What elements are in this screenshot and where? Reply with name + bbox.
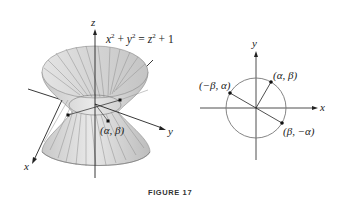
point-marker: [119, 99, 122, 102]
z-axis-arrow-icon: [93, 29, 97, 35]
y-axis-label: y: [168, 125, 173, 137]
z-axis-label: z: [91, 16, 95, 28]
point-alpha-beta-label: (α, β): [100, 124, 124, 136]
point-marker: [67, 114, 70, 117]
hyperboloid-equation: x2 + y2 = z2 + 1: [106, 32, 174, 45]
label-alpha-beta: (α, β): [273, 69, 297, 81]
point-alpha-beta-marker: [107, 120, 110, 123]
x-axis-arrow-icon: [32, 157, 37, 164]
right-y-axis-label: y: [252, 37, 257, 49]
figure-caption: FIGURE 17: [148, 188, 192, 197]
point-neg-beta-alpha: [228, 91, 232, 95]
figure-canvas: [0, 0, 338, 204]
right-y-axis-arrow-icon: [254, 51, 258, 57]
radius-alpha-beta: [256, 82, 271, 108]
right-x-axis-arrow-icon: [312, 106, 318, 110]
label-beta-neg-alpha: (β, −α): [283, 125, 315, 137]
hyperboloid-plot: [28, 29, 166, 178]
circle-plot: [200, 51, 318, 160]
y-axis-arrow-icon: [159, 126, 166, 130]
right-x-axis-label: x: [320, 101, 325, 113]
x-axis-label: x: [24, 160, 29, 172]
label-neg-beta-alpha: (−β, α): [199, 79, 231, 91]
